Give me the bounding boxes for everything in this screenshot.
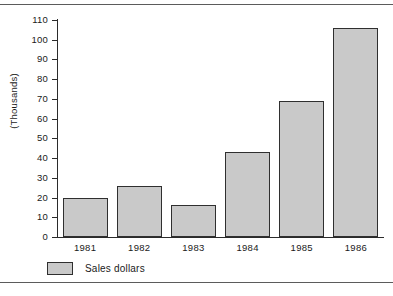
y-tick-label-80: 80 [4,74,48,84]
bar-1984 [225,152,270,237]
bottom-divider-rule [0,282,393,283]
y-tick-label-70: 70 [4,94,48,104]
y-tick-0 [52,237,58,238]
x-tick-label-1983: 1983 [166,243,220,253]
x-axis-line [57,237,384,238]
y-tick-label-20: 20 [4,193,48,203]
y-tick-label-0: 0 [4,232,48,242]
bar-1981 [63,198,108,237]
legend-swatch-sales-dollars [47,262,73,275]
x-tick-label-1985: 1985 [275,243,329,253]
y-tick-label-100: 100 [4,35,48,45]
bar-1982 [117,186,162,237]
bar-chart-figure: (Thousands) 1101009080706050403020100 19… [0,0,393,296]
legend-label-sales-dollars: Sales dollars [85,263,145,274]
x-tick-label-1984: 1984 [221,243,275,253]
x-tick-label-1982: 1982 [112,243,166,253]
y-tick-label-30: 30 [4,173,48,183]
plot-area [58,20,383,237]
bar-1986 [333,28,378,237]
bar-1983 [171,205,216,237]
x-tick-label-1986: 1986 [329,243,383,253]
y-tick-label-10: 10 [4,212,48,222]
y-tick-label-110: 110 [4,15,48,25]
y-tick-label-90: 90 [4,54,48,64]
legend: Sales dollars [47,262,145,275]
y-tick-label-40: 40 [4,153,48,163]
y-tick-label-60: 60 [4,114,48,124]
top-divider-rule [0,4,393,5]
y-tick-label-50: 50 [4,133,48,143]
x-tick-label-1981: 1981 [58,243,112,253]
bar-1985 [279,101,324,237]
